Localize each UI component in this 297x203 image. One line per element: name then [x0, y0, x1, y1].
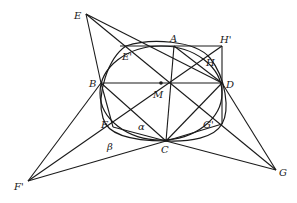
label-Fp: F': [13, 181, 24, 192]
label-M: M: [152, 89, 164, 100]
geometry-diagram: E A H' E' H B M D F G' C F' G α β: [0, 0, 297, 203]
center-dot-M: [159, 81, 163, 85]
label-A: A: [169, 33, 177, 44]
label-G: G: [279, 167, 287, 178]
label-Gp: G': [203, 119, 214, 130]
line-E-G: [86, 14, 276, 170]
label-Ep: E': [121, 51, 132, 62]
label-Hp: H': [219, 34, 231, 45]
label-beta: β: [106, 141, 113, 152]
label-F: F: [100, 119, 109, 130]
line-A-C: [166, 46, 174, 141]
line-Fp-C: [28, 141, 166, 181]
label-B: B: [88, 78, 96, 89]
label-D: D: [225, 79, 234, 90]
label-alpha: α: [138, 121, 145, 132]
label-H: H: [205, 57, 215, 68]
construction-lines: [28, 14, 276, 181]
line-D-G: [222, 83, 276, 170]
line-Fp-B: [28, 83, 101, 181]
line-C-G: [166, 141, 276, 170]
label-C: C: [161, 144, 169, 155]
point-labels: E A H' E' H B M D F G' C F' G α β: [13, 10, 287, 192]
label-E: E: [73, 10, 82, 21]
